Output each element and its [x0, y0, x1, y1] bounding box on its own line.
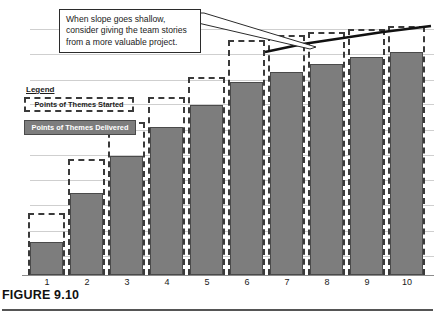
x-tick-label: 7: [267, 277, 307, 287]
bar-group[interactable]: [110, 35, 143, 275]
axis-baseline: [22, 275, 434, 276]
bar-delivered: [310, 64, 343, 275]
bar-group[interactable]: [70, 35, 103, 275]
x-tick-label: 4: [147, 277, 187, 287]
chart-plot-area: 1 2 3 4 5 6 7 8 9 10 Legend Points of Th…: [0, 0, 435, 283]
bar-group[interactable]: [350, 35, 383, 275]
x-tick-label: 5: [187, 277, 227, 287]
legend-label-started: Points of Themes Started: [34, 100, 123, 109]
caption-rule: [2, 309, 433, 311]
bar-delivered: [390, 52, 423, 275]
callout-box: When slope goes shallow, consider giving…: [59, 9, 201, 53]
bar-delivered: [150, 127, 183, 275]
bar-group[interactable]: [230, 35, 263, 275]
bar-group[interactable]: [30, 35, 63, 275]
bar-delivered: [70, 193, 103, 275]
bar-group[interactable]: [190, 35, 223, 275]
x-tick-label: 8: [307, 277, 347, 287]
x-tick-label: 2: [67, 277, 107, 287]
figure-caption: FIGURE 9.10: [2, 288, 79, 302]
bar-group[interactable]: [310, 35, 343, 275]
bar-delivered: [270, 72, 303, 275]
bar-delivered: [110, 156, 143, 275]
legend-title: Legend: [26, 85, 136, 94]
legend-swatch-delivered: Points of Themes Delivered: [24, 120, 136, 135]
x-tick-label: 6: [227, 277, 267, 287]
callout-line-3: from a more valuable project.: [66, 37, 195, 48]
callout-pointer: [198, 11, 318, 59]
bar-delivered: [230, 82, 263, 275]
legend: Legend Points of Themes Started Points o…: [24, 85, 136, 135]
bar-delivered: [190, 105, 223, 275]
x-tick-label: 10: [387, 277, 427, 287]
x-tick-label: 9: [347, 277, 387, 287]
bar-group[interactable]: [270, 35, 303, 275]
callout-line-1: When slope goes shallow,: [66, 14, 195, 25]
x-tick-label: 3: [107, 277, 147, 287]
x-tick-label: 1: [27, 277, 67, 287]
bar-group[interactable]: [150, 35, 183, 275]
legend-label-delivered: Points of Themes Delivered: [32, 123, 129, 132]
bar-group[interactable]: [390, 35, 423, 275]
bar-delivered: [350, 57, 383, 275]
legend-swatch-started: Points of Themes Started: [24, 97, 134, 112]
bar-delivered: [30, 242, 63, 275]
callout-line-2: consider giving the team stories: [66, 25, 195, 36]
figure-9-10: 1 2 3 4 5 6 7 8 9 10 Legend Points of Th…: [0, 0, 435, 321]
